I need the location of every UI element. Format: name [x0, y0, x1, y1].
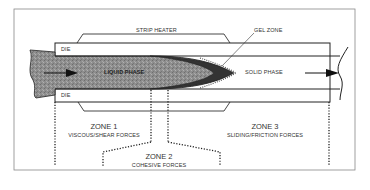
solid-phase-label: SOLID PHASE: [245, 70, 283, 76]
zone-3-subtitle: SLIDING/FRICTION FORCES: [227, 133, 303, 139]
die-top-label: DIE: [61, 47, 70, 53]
zone-2-subtitle: COHESIVE FORCES: [132, 163, 186, 169]
flow-arrow-right-icon: [326, 69, 339, 77]
gel-zone-label: GEL ZONE: [254, 28, 282, 34]
liquid-phase-label: LIQUID PHASE: [104, 70, 144, 76]
exit-edge: [338, 47, 348, 100]
zone-3-title: ZONE 3: [251, 123, 278, 131]
zone-1-subtitle: VISCOUS/SHEAR FORCES: [68, 133, 140, 139]
zone-2-title: ZONE 2: [145, 153, 172, 161]
strip-heater-top: [77, 34, 230, 43]
die-bottom-label: DIE: [61, 93, 70, 99]
strip-heater-label: STRIP HEATER: [136, 28, 177, 34]
strip-heater-bottom: [78, 102, 230, 111]
zone-1-title: ZONE 1: [90, 123, 117, 131]
